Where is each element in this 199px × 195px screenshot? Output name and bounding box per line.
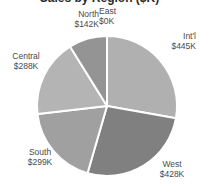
slice-label-west: West $428K — [148, 160, 196, 179]
slice-label-central: Central $288K — [1, 52, 51, 71]
slice-label-south-value: $299K — [14, 158, 66, 168]
slice-label-east: East $0K — [99, 7, 133, 26]
slice-label-south: South $299K — [14, 148, 66, 167]
slice-label-intl-value: $445K — [150, 42, 196, 52]
slice-label-intl: Int'l $445K — [150, 32, 196, 51]
slice-label-central-value: $288K — [1, 62, 51, 72]
slice-label-north: North $142K — [57, 10, 99, 29]
slice-label-west-value: $428K — [148, 170, 196, 180]
slice-label-east-value: $0K — [99, 17, 133, 27]
pie-chart: Sales by Region ($K) North $142K East $0… — [0, 0, 199, 195]
slice-label-north-value: $142K — [57, 20, 99, 30]
